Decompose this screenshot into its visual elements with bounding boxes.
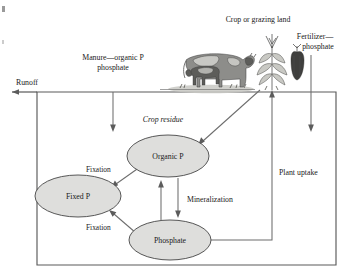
crop-or-grazing-land-label: Crop or grazing land	[226, 15, 291, 24]
manure-arrowhead	[110, 125, 116, 132]
fixation-lower-line	[114, 214, 136, 233]
manure-label-line1: Manure—organic P	[82, 53, 144, 62]
page-artifact-mark-2	[2, 40, 4, 44]
fertilizer-label-line2: phosphate	[302, 42, 334, 51]
node-organic-p[interactable]: Organic P	[127, 135, 209, 177]
fixed-p-label: Fixed P	[66, 192, 91, 201]
fixation-lower-label: Fixation	[86, 223, 111, 232]
plant-uptake-line	[211, 96, 272, 240]
corn-plant-illustration	[257, 34, 287, 90]
fertilizer-arrowhead	[308, 125, 314, 132]
plant-uptake-label: Plant uptake	[279, 168, 318, 177]
organic-p-label: Organic P	[152, 152, 184, 161]
mineralization-arrowhead	[175, 211, 181, 218]
runoff-arrowhead	[12, 89, 19, 95]
immobilization-arrowhead	[158, 180, 164, 187]
runoff-label: Runoff	[16, 78, 38, 87]
manure-label-line2: phosphate	[97, 63, 129, 72]
figure-canvas: Runoff Manure—organic P phosphate Crop o…	[0, 0, 351, 278]
plant-uptake-arrowhead	[269, 90, 275, 97]
crop-residue-label: Crop residue	[143, 115, 184, 124]
cow-illustration	[168, 53, 256, 93]
node-fixed-p[interactable]: Fixed P	[35, 175, 121, 217]
page-artifact-mark	[2, 6, 5, 12]
node-phosphate[interactable]: Phosphate	[129, 220, 211, 260]
fixation-upper-label: Fixation	[86, 165, 111, 174]
phosphate-label: Phosphate	[154, 236, 187, 245]
fertilizer-label-line1: Fertilizer—	[297, 32, 334, 41]
phosphorus-cycle-diagram: Runoff Manure—organic P phosphate Crop o…	[0, 0, 351, 278]
mineralization-label: Mineralization	[187, 195, 233, 204]
crop-residue-line	[203, 90, 260, 141]
